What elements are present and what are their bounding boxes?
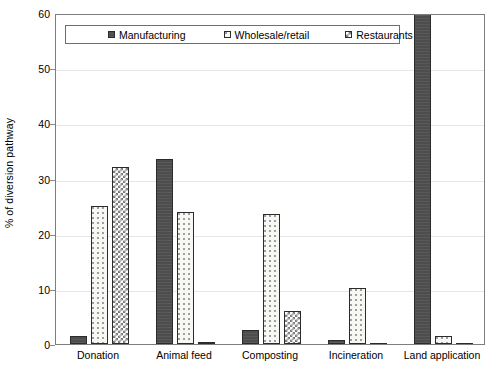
bar-group (414, 15, 473, 344)
x-axis-tick-label: Incineration (329, 349, 383, 361)
y-axis-tick-label: 20 (24, 229, 50, 240)
bar[interactable] (456, 343, 473, 344)
bar-group (70, 15, 129, 344)
bar-chart: % of diversion pathway 0102030405060 Don… (0, 0, 498, 368)
x-axis-tick-label: Animal feed (156, 349, 211, 361)
y-axis-tick-mark (50, 124, 55, 125)
bar[interactable] (112, 167, 129, 344)
bar[interactable] (370, 343, 387, 344)
bar[interactable] (70, 336, 87, 344)
x-axis-tick-labels: DonationAnimal feedCompostingIncineratio… (55, 349, 485, 368)
chart-legend: ManufacturingWholesale/retailRestaurants (65, 25, 400, 44)
y-axis-tick-labels: 0102030405060 (18, 0, 50, 368)
bar-group (328, 15, 387, 344)
legend-label: Wholesale/retail (235, 29, 310, 41)
plot-area (55, 14, 485, 345)
y-axis-tick-label: 40 (24, 119, 50, 130)
y-axis-tick-label: 10 (24, 285, 50, 296)
bar-group (156, 15, 215, 344)
bar[interactable] (198, 342, 215, 344)
y-axis-tick-mark (50, 235, 55, 236)
bar-group (242, 15, 301, 344)
y-axis-tick-mark (50, 180, 55, 181)
y-axis-tick-label: 60 (24, 9, 50, 20)
bar[interactable] (435, 336, 452, 344)
y-axis-title: % of diversion pathway (0, 0, 18, 345)
bar[interactable] (242, 330, 259, 344)
y-axis-tick-mark (50, 345, 55, 346)
x-axis-tick-label: Composting (242, 349, 298, 361)
bar[interactable] (263, 214, 280, 344)
legend-entry[interactable]: Wholesale/retail (224, 29, 310, 41)
y-axis-tick-mark (50, 69, 55, 70)
legend-swatch-icon (108, 31, 115, 38)
bar[interactable] (177, 212, 194, 344)
y-axis-tick-mark (50, 290, 55, 291)
legend-entry[interactable]: Restaurants (345, 29, 413, 41)
bar[interactable] (284, 311, 301, 344)
bars-layer (56, 15, 484, 344)
legend-label: Restaurants (356, 29, 413, 41)
x-axis-tick-label: Donation (77, 349, 119, 361)
bar[interactable] (91, 206, 108, 344)
legend-swatch-icon (345, 31, 352, 38)
legend-label: Manufacturing (119, 29, 186, 41)
legend-swatch-icon (224, 31, 231, 38)
bar[interactable] (156, 159, 173, 344)
y-axis-tick-label: 0 (24, 340, 50, 351)
legend-entry[interactable]: Manufacturing (108, 29, 186, 41)
y-axis-title-text: % of diversion pathway (3, 117, 15, 227)
bar[interactable] (414, 14, 431, 344)
y-axis-tick-label: 50 (24, 64, 50, 75)
x-axis-tick-label: Land application (404, 349, 480, 361)
bar[interactable] (349, 288, 366, 344)
bar[interactable] (328, 340, 345, 344)
y-axis-tick-label: 30 (24, 174, 50, 185)
